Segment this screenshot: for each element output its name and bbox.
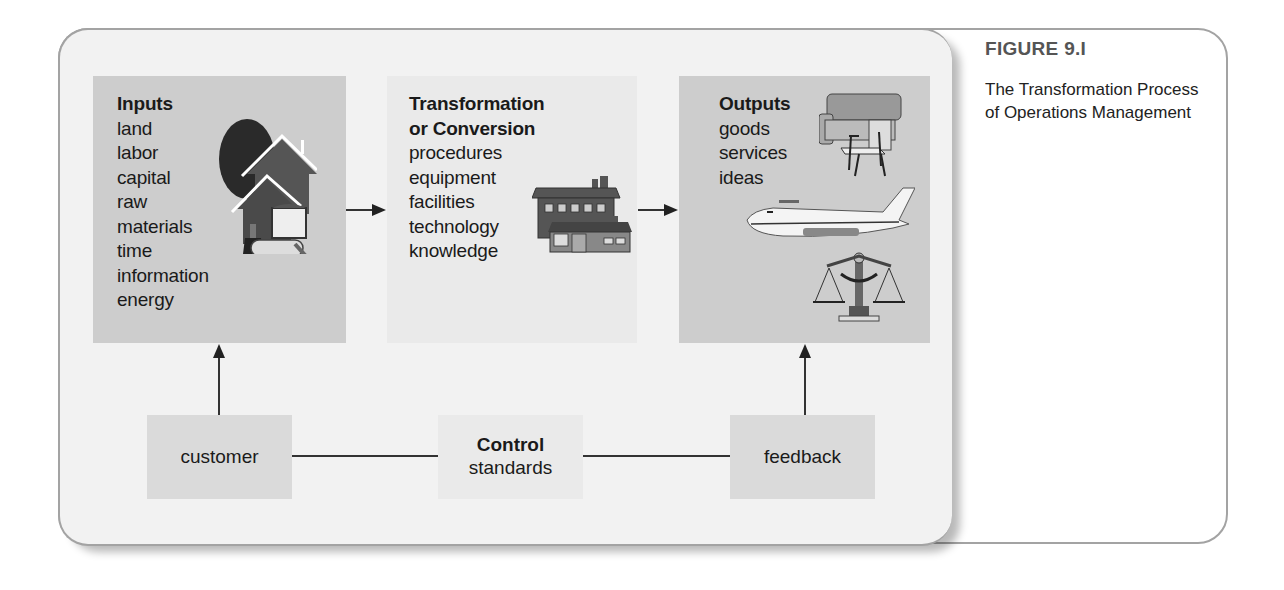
inputs-title: Inputs <box>117 92 209 117</box>
outputs-item: goods <box>719 117 790 142</box>
customer-box: customer <box>147 415 292 499</box>
outputs-title: Outputs <box>719 92 790 117</box>
airplane-icon <box>743 186 915 242</box>
factory-building-icon <box>532 176 632 256</box>
inputs-text: Inputs land labor capital raw materials … <box>117 92 209 313</box>
arrow-head-icon <box>799 344 811 358</box>
transformation-item: facilities <box>409 190 545 215</box>
inputs-item: materials <box>117 215 209 240</box>
inputs-item: time <box>117 239 209 264</box>
arrow-head-icon <box>664 204 678 216</box>
line-control-to-feedback <box>583 455 730 457</box>
inputs-item: capital <box>117 166 209 191</box>
outputs-text: Outputs goods services ideas <box>719 92 790 190</box>
transformation-item: procedures <box>409 141 545 166</box>
control-title: Control <box>438 433 583 456</box>
control-subtitle: standards <box>469 457 552 478</box>
arrow-transformation-to-outputs <box>638 209 666 211</box>
transformation-title: Transformation <box>409 92 545 117</box>
figure-label: FIGURE 9.I <box>985 38 1086 60</box>
scales-of-justice-icon <box>813 252 905 324</box>
figure-title: The Transformation Process of Operations… <box>985 78 1215 124</box>
arrow-head-icon <box>372 204 386 216</box>
outputs-item: services <box>719 141 790 166</box>
transformation-item: technology <box>409 215 545 240</box>
transformation-subtitle: or Conversion <box>409 117 545 142</box>
line-customer-to-control <box>292 455 438 457</box>
customer-label: customer <box>147 445 292 468</box>
control-box: Control standards <box>438 415 583 499</box>
transformation-item: equipment <box>409 166 545 191</box>
inputs-item: information <box>117 264 209 289</box>
house-tree-paint-icon <box>217 104 317 254</box>
feedback-box: feedback <box>730 415 875 499</box>
arrow-customer-to-inputs <box>218 356 220 415</box>
control-text: Control standards <box>438 433 583 479</box>
furniture-icon <box>819 92 905 178</box>
inputs-item: energy <box>117 288 209 313</box>
inputs-item: raw <box>117 190 209 215</box>
arrow-feedback-to-outputs <box>804 356 806 415</box>
outputs-box: Outputs goods services ideas <box>679 76 930 343</box>
inputs-item: labor <box>117 141 209 166</box>
arrow-inputs-to-transformation <box>346 209 374 211</box>
inputs-item: land <box>117 117 209 142</box>
inputs-box: Inputs land labor capital raw materials … <box>93 76 346 343</box>
transformation-item: knowledge <box>409 239 545 264</box>
transformation-box: Transformation or Conversion procedures … <box>387 76 637 343</box>
feedback-label: feedback <box>730 445 875 468</box>
transformation-text: Transformation or Conversion procedures … <box>409 92 545 264</box>
arrow-head-icon <box>213 344 225 358</box>
